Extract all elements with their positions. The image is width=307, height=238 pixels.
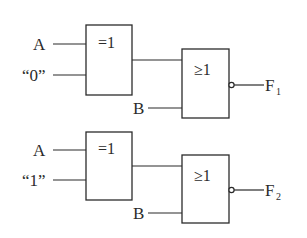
xor-gate-symbol: =1 — [98, 140, 115, 157]
input-a-label: A — [33, 35, 46, 54]
output-f2-label: F — [265, 181, 274, 200]
nor-gate — [182, 155, 229, 223]
circuit-svg: A “0” =1 B ≥1 F 1 A “1” =1 — [0, 0, 307, 238]
output-f1-subscript: 1 — [276, 86, 281, 97]
input-a-label: A — [33, 141, 46, 160]
nor-gate-symbol: ≥1 — [194, 61, 211, 78]
circuit-2: A “1” =1 B ≥1 F 2 — [22, 132, 281, 223]
nor-gate — [182, 49, 229, 118]
output-f2-subscript: 2 — [276, 191, 281, 202]
input-b-label: B — [133, 99, 144, 118]
circuit-1: A “0” =1 B ≥1 F 1 — [22, 25, 281, 118]
input-const-label: “0” — [22, 66, 46, 85]
inversion-bubble-icon — [229, 187, 234, 192]
output-f1-label: F — [265, 76, 274, 95]
xor-gate-symbol: =1 — [98, 34, 115, 51]
nor-gate-symbol: ≥1 — [194, 167, 211, 184]
inversion-bubble-icon — [229, 82, 234, 87]
logic-diagram: A “0” =1 B ≥1 F 1 A “1” =1 — [0, 0, 307, 238]
input-b-label: B — [133, 204, 144, 223]
input-const-label: “1” — [22, 171, 46, 190]
